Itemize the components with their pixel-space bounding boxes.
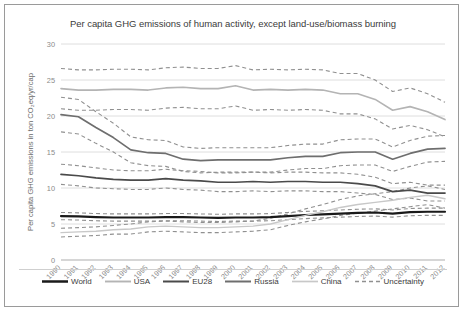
y-axis-label: Per capita GHG emissions in ton CO₂eq/yr… (26, 73, 35, 231)
dashed-line-swatch-icon (355, 278, 381, 285)
y-tick-label: 30 (47, 40, 55, 49)
series-line-russia (61, 115, 445, 161)
line-swatch-icon (105, 278, 131, 285)
legend-label: USA (134, 277, 150, 286)
series-line-world (61, 212, 445, 218)
y-tick-label: 20 (47, 112, 55, 121)
y-tick-label: 0 (51, 256, 55, 265)
y-axis-title: Per capita GHG emissions in ton CO₂eq/yr… (26, 73, 35, 231)
legend-label: World (71, 277, 92, 286)
legend-label: China (321, 277, 342, 286)
series-line-usa (61, 86, 445, 120)
grid-lines (61, 44, 445, 260)
y-tick-label: 10 (47, 184, 55, 193)
legend-label: Russia (254, 277, 278, 286)
line-swatch-icon (42, 278, 68, 285)
uncertainty-band-china (61, 186, 445, 228)
uncertainty-band-usa (61, 106, 445, 137)
y-tick-label: 25 (47, 76, 55, 85)
legend-separator (19, 269, 447, 270)
legend-item-uncertainty[interactable]: Uncertainty (355, 277, 424, 286)
uncertainty-band-usa (61, 66, 445, 103)
legend-label: EU28 (192, 277, 212, 286)
series-line-eu28 (61, 174, 445, 193)
series-lines (61, 66, 445, 237)
figure-outer-frame: Per capita GHG emissions of human activi… (4, 4, 459, 307)
y-tick-label: 5 (51, 220, 55, 229)
legend-item-world[interactable]: World (42, 277, 92, 286)
line-swatch-icon (225, 278, 251, 285)
line-swatch-icon (292, 278, 318, 285)
legend-item-russia[interactable]: Russia (225, 277, 278, 286)
y-axis-ticks: 051015202530 (47, 40, 55, 265)
legend-label: Uncertainty (384, 277, 424, 286)
y-tick-label: 15 (47, 148, 55, 157)
line-swatch-icon (163, 278, 189, 285)
chart-plot-area: 051015202530 Per capita GHG emissions in… (13, 11, 453, 301)
chart-card: Per capita GHG emissions of human activi… (13, 11, 453, 301)
legend-item-eu28[interactable]: EU28 (163, 277, 212, 286)
legend-item-china[interactable]: China (292, 277, 342, 286)
legend-item-usa[interactable]: USA (105, 277, 150, 286)
chart-legend: WorldUSAEU28RussiaChinaUncertainty (13, 277, 453, 286)
